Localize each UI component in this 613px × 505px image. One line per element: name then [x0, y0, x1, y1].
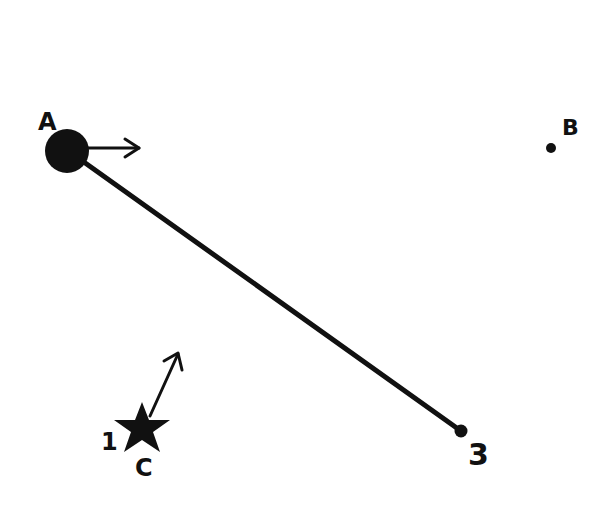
label-3: 3 — [468, 440, 489, 470]
point-b-dot — [546, 143, 556, 153]
point-3-dot — [455, 425, 468, 438]
diagram-canvas — [0, 0, 613, 505]
star-icon — [114, 402, 170, 452]
label-a: A — [38, 110, 57, 134]
label-b: B — [562, 117, 579, 139]
label-1: 1 — [101, 430, 118, 454]
arrow-right-icon — [88, 139, 139, 157]
arrow-up-right-icon — [150, 353, 182, 416]
label-c: C — [135, 456, 153, 480]
segment-a-to-3 — [67, 150, 461, 431]
